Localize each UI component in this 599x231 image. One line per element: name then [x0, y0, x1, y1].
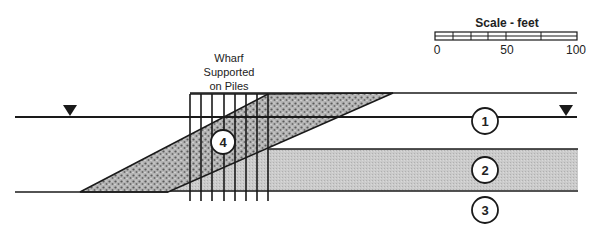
wharf-label-line-1: Wharf	[214, 52, 244, 64]
scale-tick-50: 50	[500, 43, 514, 57]
scale-bar: Scale - feet 0 50 100	[434, 16, 587, 57]
wharf-label-line-2: Supported	[204, 66, 255, 78]
scale-title: Scale - feet	[475, 16, 538, 30]
wharf-label-line-3: on Piles	[209, 80, 249, 92]
svg-text:1: 1	[481, 114, 488, 129]
zone-marker-1: 1	[472, 108, 498, 134]
svg-text:3: 3	[481, 203, 488, 218]
svg-text:4: 4	[219, 135, 227, 150]
zone-marker-4: 4	[211, 130, 235, 154]
svg-text:2: 2	[481, 163, 488, 178]
scale-tick-100: 100	[566, 43, 586, 57]
zone-marker-2: 2	[472, 157, 498, 183]
wharf-cross-section-diagram: Wharf Supported on Piles 1 2 3 4 Scale -…	[0, 0, 599, 231]
zone-marker-3: 3	[472, 197, 498, 223]
scale-tick-0: 0	[434, 43, 441, 57]
water-level-marker-icon	[559, 105, 573, 116]
water-level-marker-icon	[63, 105, 77, 116]
